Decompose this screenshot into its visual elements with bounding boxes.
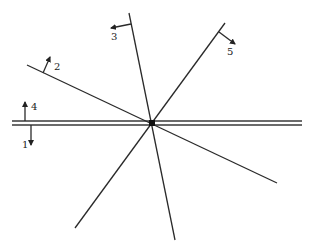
arrow-2-icon — [43, 57, 50, 73]
arrow-3-icon — [111, 24, 131, 28]
center-node — [149, 120, 155, 126]
label-4: 4 — [31, 101, 37, 112]
line-3 — [129, 13, 175, 240]
horizontal-double-line — [12, 121, 302, 125]
arrow-5-icon — [219, 32, 235, 44]
label-5: 5 — [227, 46, 233, 57]
diagram-canvas: 1 2 3 4 5 — [0, 0, 316, 252]
label-3: 3 — [111, 31, 117, 42]
label-1: 1 — [22, 139, 28, 150]
label-2: 2 — [54, 61, 60, 72]
